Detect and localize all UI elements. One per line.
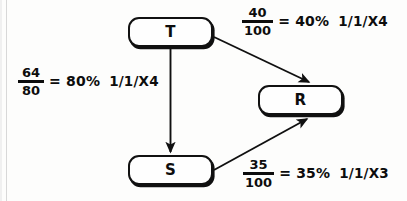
node-r[interactable]: R <box>258 85 343 115</box>
edge-label-percent: = 35% <box>279 165 330 181</box>
edge-label-t-to-s: 64 80 = 80% 1/1/X4 <box>18 66 159 97</box>
edge-label-code: 1/1/X4 <box>338 13 388 29</box>
fraction-denominator: 80 <box>20 83 42 97</box>
edge-label-code: 1/1/X3 <box>339 165 389 181</box>
fraction-40-over-100: 40 100 <box>242 6 273 37</box>
edge-label-t-to-r: 40 100 = 40% 1/1/X4 <box>242 6 388 37</box>
node-r-label: R <box>295 93 307 108</box>
fraction-denominator: 100 <box>243 175 274 189</box>
edge-label-percent: = 80% <box>49 73 100 89</box>
node-s[interactable]: S <box>128 155 213 185</box>
fraction-64-over-80: 64 80 <box>18 66 44 97</box>
node-t[interactable]: T <box>128 17 213 47</box>
fraction-denominator: 100 <box>242 23 273 37</box>
edge-label-s-to-r: 35 100 = 35% 1/1/X3 <box>243 158 389 189</box>
edge-t-to-r <box>214 37 309 82</box>
page-edge-line <box>6 0 7 201</box>
fraction-numerator: 35 <box>248 158 270 172</box>
edge-label-percent: = 40% <box>278 13 329 29</box>
fraction-35-over-100: 35 100 <box>243 158 274 189</box>
node-t-label: T <box>165 25 176 40</box>
fraction-numerator: 40 <box>247 6 269 20</box>
diagram-canvas: T R S 40 100 = 40% 1/1/X4 64 80 = 80% 1/… <box>0 0 407 201</box>
fraction-numerator: 64 <box>20 66 42 80</box>
edge-label-code: 1/1/X4 <box>109 73 159 89</box>
page-edge-shadow <box>0 0 2 201</box>
node-s-label: S <box>165 163 176 178</box>
